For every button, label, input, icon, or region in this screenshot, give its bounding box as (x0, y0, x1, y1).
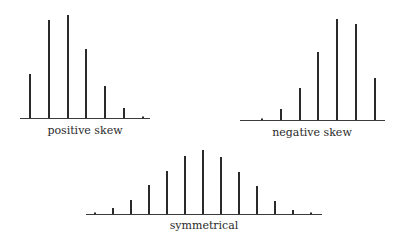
negative-skew-chart (240, 19, 385, 121)
symmetrical-chart (86, 150, 322, 215)
positive-skew-caption: positive skew (25, 124, 145, 137)
symmetrical-caption: symmetrical (144, 219, 264, 232)
negative-skew-caption: negative skew (252, 126, 372, 139)
skew-diagrams (0, 0, 400, 244)
positive-skew-chart (20, 15, 150, 119)
